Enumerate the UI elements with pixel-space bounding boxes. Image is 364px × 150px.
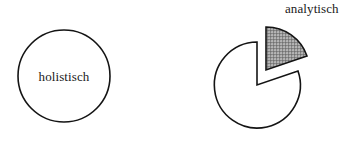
right-diagram-group: analytisch <box>214 1 339 128</box>
figure-container: holistisch analytisch <box>0 0 364 150</box>
left-diagram-group: holistisch <box>18 30 110 122</box>
diagram-canvas: holistisch analytisch <box>0 0 364 150</box>
pie-slice-analytisch <box>266 27 307 70</box>
pie-exploded-slice-group <box>266 27 307 70</box>
analytic-label: analytisch <box>285 1 339 16</box>
holistic-label: holistisch <box>39 69 90 84</box>
